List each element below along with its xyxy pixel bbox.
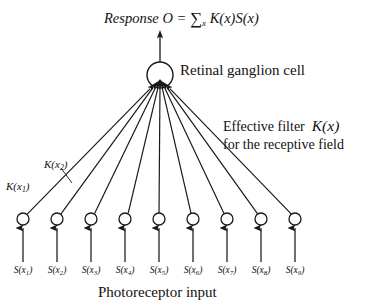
signal-label-8: S(x8) xyxy=(252,266,271,277)
weight-label-kx2: K(x2) xyxy=(44,159,68,172)
photoreceptor-circle-1 xyxy=(17,213,29,225)
signal-label-9: S(x9) xyxy=(286,266,305,277)
retinal-ganglion-cell-label: Retinal ganglion cell xyxy=(180,63,305,78)
convergence-line-2 xyxy=(61,88,153,214)
signal-label-5-close: ) xyxy=(165,265,168,275)
signal-label-4-close: ) xyxy=(131,265,134,275)
signal-label-8-close: ) xyxy=(267,265,270,275)
photoreceptor-input-arrows xyxy=(23,228,295,262)
response-equation: Response O = ∑x K(x)S(x) xyxy=(104,9,259,28)
signal-label-7-base: S(x xyxy=(218,265,230,275)
output-arrow xyxy=(157,30,163,62)
signal-label-1-close: ) xyxy=(29,265,32,275)
signal-label-1: S(x1) xyxy=(14,266,33,277)
signal-label-8-base: S(x xyxy=(252,265,264,275)
photoreceptor-circle-9 xyxy=(289,213,301,225)
photoreceptor-circle-5 xyxy=(153,213,165,225)
diagram-canvas xyxy=(0,0,375,307)
signal-label-7: S(x7) xyxy=(218,266,237,277)
effective-filter-text: Effective filter xyxy=(223,119,305,134)
signal-label-7-close: ) xyxy=(233,265,236,275)
effective-filter-label-line2: for the receptive field xyxy=(223,138,344,152)
weight-label-kx1-close: ) xyxy=(26,180,30,192)
signal-label-2-base: S(x xyxy=(48,265,60,275)
weight-label-kx2-close: ) xyxy=(64,158,68,170)
convergence-line-1 xyxy=(27,89,150,215)
signal-label-9-base: S(x xyxy=(286,265,298,275)
summation-symbol: ∑ xyxy=(190,9,202,28)
effective-filter-label-line1: Effective filter K(x) xyxy=(223,118,339,134)
signal-label-2-close: ) xyxy=(63,265,66,275)
photoreceptor-circles xyxy=(17,213,301,225)
weight-label-kx1: K(x1) xyxy=(6,181,30,194)
photoreceptor-circle-2 xyxy=(51,213,63,225)
convergence-line-7 xyxy=(164,87,224,213)
signal-label-2: S(x2) xyxy=(48,266,67,277)
signal-label-1-base: S(x xyxy=(14,265,26,275)
photoreceptor-circle-7 xyxy=(221,213,233,225)
convergence-line-5 xyxy=(159,87,160,214)
response-equation-kernel: K(x) xyxy=(210,10,236,26)
signal-label-5-base: S(x xyxy=(150,265,162,275)
signal-label-4-base: S(x xyxy=(116,265,128,275)
photoreceptor-circle-4 xyxy=(119,213,131,225)
weight-label-kx2-base: K(x xyxy=(44,158,60,170)
signal-label-6-base: S(x xyxy=(184,265,196,275)
convergence-line-3 xyxy=(95,87,156,213)
photoreceptor-circle-6 xyxy=(187,213,199,225)
response-equation-signal: S(x) xyxy=(235,10,258,26)
signal-label-3: S(x3) xyxy=(82,266,101,277)
weight-label-kx1-base: K(x xyxy=(6,180,22,192)
photoreceptor-circle-8 xyxy=(255,213,267,225)
retinal-ganglion-diagram: Response O = ∑x K(x)S(x) Retinal ganglio… xyxy=(0,0,375,307)
signal-label-6-close: ) xyxy=(199,265,202,275)
signal-label-6: S(x6) xyxy=(184,266,203,277)
response-equation-prefix: Response xyxy=(104,10,159,26)
effective-filter-symbol: K(x) xyxy=(312,117,340,134)
photoreceptor-circle-3 xyxy=(85,213,97,225)
signal-label-3-close: ) xyxy=(97,265,100,275)
convergence-line-4 xyxy=(128,87,158,214)
signal-label-3-base: S(x xyxy=(82,265,94,275)
photoreceptor-input-caption: Photoreceptor input xyxy=(98,285,217,300)
signal-label-5: S(x5) xyxy=(150,266,169,277)
response-equation-equals: = xyxy=(177,10,187,26)
response-equation-output-symbol: O xyxy=(162,10,172,26)
signal-label-4: S(x4) xyxy=(116,266,135,277)
signal-label-9-close: ) xyxy=(301,265,304,275)
